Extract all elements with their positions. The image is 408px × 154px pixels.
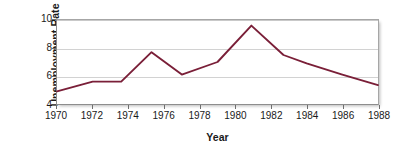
x-tickmark-1970 (56, 105, 57, 109)
x-tick-label-1982: 1982 (251, 111, 291, 121)
x-tick-label-1972: 1972 (72, 111, 112, 121)
x-tickmark-1972 (92, 105, 93, 109)
y-tickmark-6 (52, 76, 56, 77)
x-tickmark-1976 (164, 105, 165, 109)
x-tick-label-1986: 1986 (323, 111, 363, 121)
y-tick-label-4: 4 (34, 100, 52, 110)
y-axis-tick-labels: 46810 (30, 0, 52, 154)
y-tick-label-8: 8 (34, 43, 52, 53)
unemployment-rate-line-chart: Unemployment Rate 46810 Year 19701972197… (0, 0, 408, 154)
x-tick-label-1988: 1988 (359, 111, 399, 121)
x-tickmark-1978 (200, 105, 201, 109)
x-tickmark-1980 (235, 105, 236, 109)
y-tickmark-8 (52, 48, 56, 49)
x-axis-title: Year (56, 131, 379, 143)
x-tickmark-1984 (307, 105, 308, 109)
x-tickmark-1982 (271, 105, 272, 109)
y-tick-label-10: 10 (34, 14, 52, 24)
plot-area (56, 19, 379, 105)
x-tick-label-1976: 1976 (144, 111, 184, 121)
x-tick-label-1980: 1980 (215, 111, 255, 121)
series-line-unemployment-rate (57, 20, 378, 104)
x-tick-label-1970: 1970 (36, 111, 76, 121)
x-tick-label-1978: 1978 (180, 111, 220, 121)
x-tickmark-1986 (343, 105, 344, 109)
x-tick-label-1984: 1984 (287, 111, 327, 121)
x-tickmark-1988 (379, 105, 380, 109)
y-tick-label-6: 6 (34, 71, 52, 81)
y-tickmark-10 (52, 19, 56, 20)
series-polyline (57, 26, 378, 92)
x-tick-label-1974: 1974 (108, 111, 148, 121)
x-tickmark-1974 (128, 105, 129, 109)
